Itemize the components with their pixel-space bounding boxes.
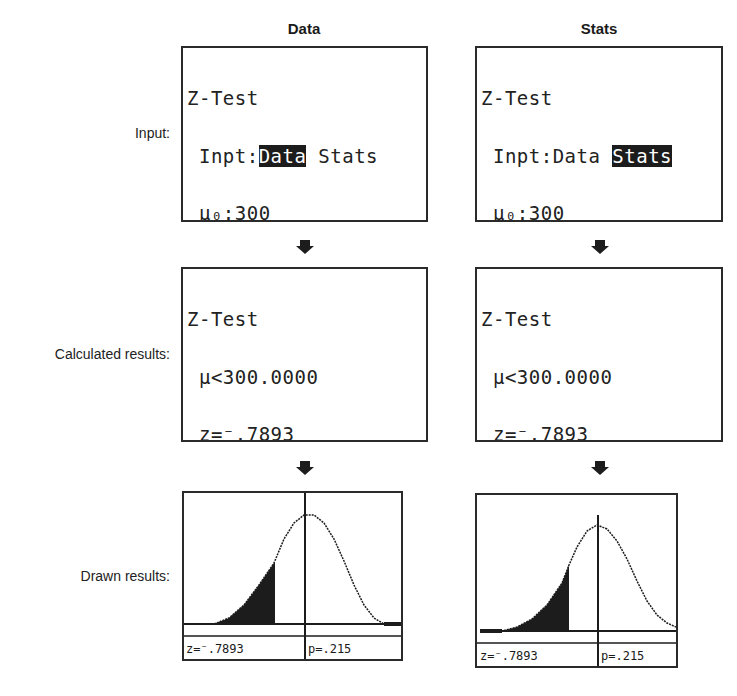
inpt-label[interactable]: Inpt:Data — [481, 145, 612, 167]
stats-graph-screen: z=⁻.7893 p=.215 — [475, 493, 678, 668]
row-label-input: Input: — [0, 125, 170, 141]
z-value-label: z=⁻.7893 — [480, 649, 538, 663]
data-graph-screen: z=⁻.7893 p=.215 — [182, 491, 403, 661]
result-line: μ<300.0000 — [187, 368, 426, 388]
normal-curve-graph — [184, 493, 401, 659]
inpt-option-stats-selected[interactable]: Stats — [612, 145, 672, 167]
inpt-option-stats[interactable]: Stats — [306, 145, 378, 167]
row-label-drawn: Drawn results: — [0, 568, 170, 584]
row-label-calculated: Calculated results: — [0, 346, 170, 362]
inpt-label: Inpt: — [187, 145, 259, 167]
data-input-screen: Z-Test Inpt:Data Stats μ₀:300 σ:3 List:L… — [181, 46, 428, 222]
result-line: z=⁻.7893 — [481, 425, 721, 442]
p-value-label: p=.215 — [308, 642, 351, 656]
p-value-label: p=.215 — [601, 649, 644, 663]
screen-title: Z-Test — [187, 89, 426, 109]
data-results-screen: Z-Test μ<300.0000 z=⁻.7893 p=.2150 x̄=29… — [181, 267, 428, 442]
stats-results-screen: Z-Test μ<300.0000 z=⁻.7893 p=.2150 x̄=29… — [475, 267, 723, 442]
z-value-label: z=⁻.7893 — [186, 642, 244, 656]
screen-title: Z-Test — [187, 310, 426, 330]
result-line: μ<300.0000 — [481, 368, 721, 388]
stats-input-screen: Z-Test Inpt:Data Stats μ₀:300 σ:3 x̄:299… — [475, 46, 723, 222]
column-header-data: Data — [244, 20, 364, 37]
screen-title: Z-Test — [481, 89, 721, 109]
column-header-stats: Stats — [539, 20, 659, 37]
inpt-option-data-selected[interactable]: Data — [259, 145, 307, 167]
screen-title: Z-Test — [481, 310, 721, 330]
mu0-field[interactable]: μ₀:300 — [187, 204, 426, 222]
mu0-field[interactable]: μ₀:300 — [481, 204, 721, 222]
normal-curve-graph — [477, 495, 676, 666]
result-line: z=⁻.7893 — [187, 425, 426, 442]
